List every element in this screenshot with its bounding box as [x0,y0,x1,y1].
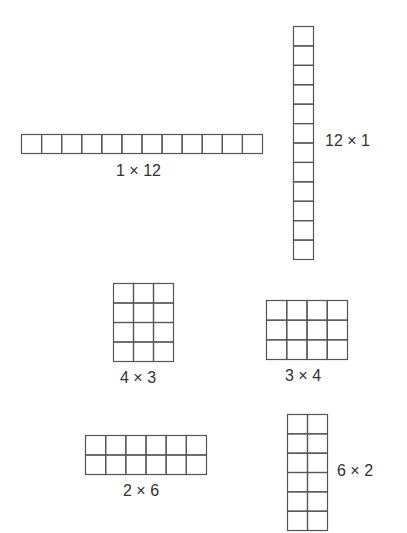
grid-cell [294,201,314,220]
grid-cell [134,284,154,304]
grid-cell [126,455,146,475]
grid-cell [106,455,126,475]
grid-drawing [0,0,407,533]
grid-cell [82,135,102,154]
grid-cell [288,453,308,472]
label-3x4: 3 × 4 [285,368,321,384]
label-2x6: 2 × 6 [123,483,159,499]
grid-cell [288,434,308,453]
grid-cell [288,415,308,434]
grid-cell [134,323,154,343]
grid-cell [308,434,328,453]
grid-cell [327,340,347,360]
grid-cell [327,320,347,340]
label-1x12: 1 × 12 [116,163,161,179]
grid-cell [114,303,134,323]
label-4x3: 4 × 3 [120,370,156,386]
grid-cell [294,221,314,240]
array-grid-12x1 [294,27,314,260]
array-grid-4x3 [114,284,174,362]
grid-cell [242,135,262,154]
grid-cell [166,436,186,456]
grid-cell [307,340,327,360]
grid-cell [307,301,327,321]
grid-cell [114,284,134,304]
grid-cell [122,135,142,154]
grid-cell [287,301,307,321]
grid-cell [202,135,222,154]
label-6x2: 6 × 2 [337,463,373,479]
grid-cell [86,436,106,456]
grid-cell [288,492,308,511]
grid-cell [126,436,146,456]
grid-cell [142,135,162,154]
grid-cell [106,436,126,456]
grid-cell [154,323,174,343]
grid-cell [294,182,314,201]
grid-cell [134,303,154,323]
array-grid-3x4 [267,301,348,360]
grid-cell [288,473,308,492]
grid-cell [86,455,106,475]
grid-cell [186,436,206,456]
grid-cell [308,415,328,434]
grid-cell [294,240,314,259]
grid-cell [182,135,202,154]
grid-cell [308,473,328,492]
grid-cell [267,320,287,340]
grid-cell [42,135,62,154]
grid-cell [294,124,314,143]
grid-cell [186,455,206,475]
grid-cell [294,27,314,46]
grid-cell [267,301,287,321]
grid-cell [287,320,307,340]
grid-cell [308,492,328,511]
grid-cell [166,455,186,475]
grid-cell [294,162,314,181]
grid-cell [294,104,314,123]
grid-cell [162,135,182,154]
grid-cell [294,46,314,65]
grid-cell [114,342,134,362]
grid-cell [222,135,242,154]
grid-cell [288,511,308,530]
grid-cell [154,303,174,323]
grid-cell [22,135,42,154]
array-grid-1x12 [22,135,263,154]
grid-cell [267,340,287,360]
array-grid-6x2 [288,415,328,531]
grid-cell [308,511,328,530]
array-grid-2x6 [86,436,207,475]
grid-cell [114,323,134,343]
grid-cell [294,143,314,162]
grid-cell [307,320,327,340]
grid-cell [287,340,307,360]
grid-cell [294,85,314,104]
grid-cell [62,135,82,154]
grid-cell [308,453,328,472]
grid-cell [134,342,154,362]
grid-cell [154,342,174,362]
grid-cell [294,65,314,84]
grid-cell [102,135,122,154]
grid-cell [146,455,166,475]
grid-cell [327,301,347,321]
grid-cell [146,436,166,456]
grid-cell [154,284,174,304]
label-12x1: 12 × 1 [325,133,370,149]
